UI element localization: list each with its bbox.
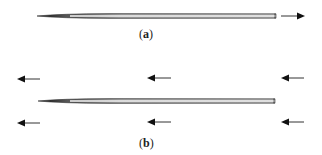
panel-b-arrow-top-left: [17, 76, 40, 83]
panel-b-arrow-bottom-middle: [147, 119, 171, 126]
panel-b-arrow-bottom-left: [17, 120, 40, 127]
panel-b-arrow-bottom-right: [281, 119, 304, 126]
panel-b-label-letter: b: [143, 136, 150, 150]
panel-a-needle: [37, 14, 276, 19]
panel-b-label: (b): [139, 137, 154, 149]
panel-a-arrow-right: [281, 13, 305, 20]
panel-a-label: (a): [139, 28, 153, 40]
panel-b-needle: [38, 99, 275, 104]
panel-b-arrow-top-right: [281, 75, 304, 82]
diagram-figure: (a) (b): [0, 0, 322, 155]
diagram-canvas: [0, 0, 322, 155]
panel-a-label-letter: a: [143, 27, 149, 41]
panel-b-arrow-top-middle: [147, 75, 171, 82]
